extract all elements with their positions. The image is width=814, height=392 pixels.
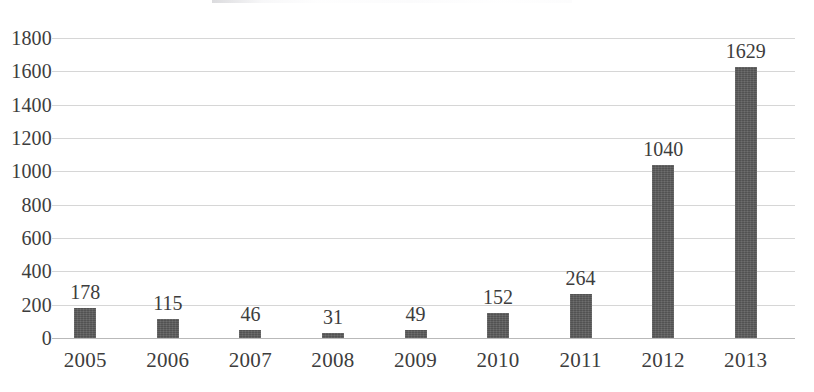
x-tick-label: 2005 — [40, 348, 130, 372]
y-tick-label: 200 — [0, 295, 52, 315]
bar-value-label: 1040 — [623, 139, 703, 159]
bar — [652, 165, 674, 338]
bar-value-label: 115 — [128, 293, 208, 313]
bar-group: 31 — [322, 38, 344, 338]
x-tick-label: 2006 — [123, 348, 213, 372]
y-tick-label: 800 — [0, 195, 52, 215]
y-tick-label: 600 — [0, 228, 52, 248]
x-tick-label: 2013 — [701, 348, 791, 372]
bar-chart: 180016001400120010008006004002000 178115… — [0, 0, 814, 392]
bar — [487, 313, 509, 338]
y-tick-label: 0 — [0, 328, 52, 348]
bar — [322, 333, 344, 338]
bar — [570, 294, 592, 338]
bar-value-label: 1629 — [706, 41, 786, 61]
bar — [405, 330, 427, 338]
bar — [239, 330, 261, 338]
bar-value-label: 46 — [210, 304, 290, 324]
bar — [735, 67, 757, 339]
plot-area: 17811546314915226410401629 — [52, 38, 795, 338]
x-tick-label: 2008 — [288, 348, 378, 372]
y-tick-label: 1600 — [0, 61, 52, 81]
bar-group: 1040 — [652, 38, 674, 338]
bar-value-label: 49 — [376, 304, 456, 324]
gridline-0 — [52, 338, 795, 339]
y-tick-label: 1200 — [0, 128, 52, 148]
bar-value-label: 264 — [541, 268, 621, 288]
bar-value-label: 31 — [293, 307, 373, 327]
bar — [157, 319, 179, 338]
y-tick-label: 1400 — [0, 95, 52, 115]
bar-value-label: 178 — [45, 282, 125, 302]
bar-group: 46 — [239, 38, 261, 338]
bar-group: 264 — [570, 38, 592, 338]
bar-group: 1629 — [735, 38, 757, 338]
x-tick-label: 2011 — [536, 348, 626, 372]
bar-group: 178 — [74, 38, 96, 338]
clipped-title-artifact — [212, 0, 572, 3]
bar-group: 115 — [157, 38, 179, 338]
x-tick-label: 2012 — [618, 348, 708, 372]
y-tick-label: 1000 — [0, 161, 52, 181]
bar-group: 49 — [405, 38, 427, 338]
x-tick-label: 2010 — [453, 348, 543, 372]
y-tick-label: 1800 — [0, 28, 52, 48]
bar-group: 152 — [487, 38, 509, 338]
x-tick-label: 2007 — [205, 348, 295, 372]
bar — [74, 308, 96, 338]
bar-value-label: 152 — [458, 287, 538, 307]
y-tick-label: 400 — [0, 261, 52, 281]
x-tick-label: 2009 — [371, 348, 461, 372]
